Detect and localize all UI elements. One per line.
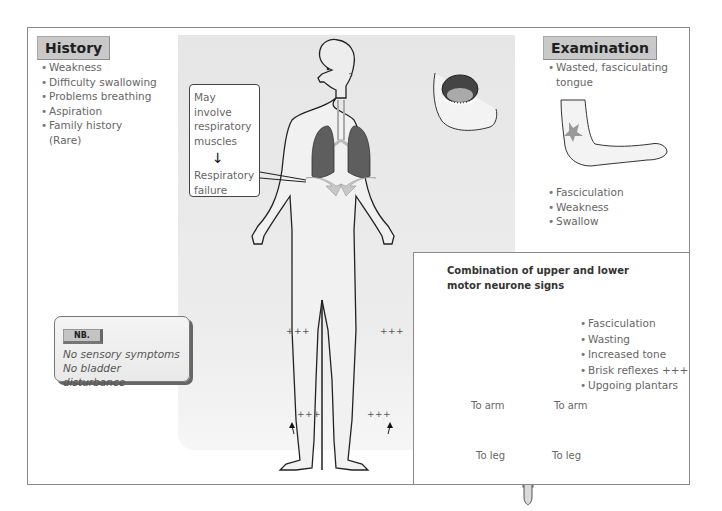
bullet-icon: • bbox=[580, 363, 586, 379]
history-title: History bbox=[37, 36, 110, 60]
to-arm-right-label: To arm bbox=[554, 400, 588, 411]
respiratory-failure-text: Respiratory failure bbox=[194, 168, 255, 197]
bullet-icon: • bbox=[41, 60, 47, 75]
down-arrow-icon: ↓ bbox=[194, 148, 255, 168]
examination-item: •Swallow bbox=[548, 214, 688, 229]
arm-fasciculation-illustration bbox=[555, 100, 670, 180]
nb-line: No bladder disturbance bbox=[63, 361, 181, 389]
history-item: •Family history (Rare) bbox=[41, 118, 131, 147]
bullet-icon: • bbox=[41, 75, 47, 90]
history-item: •Weakness bbox=[41, 60, 171, 75]
history-item: •Problems breathing bbox=[41, 89, 171, 104]
ankle-reflex-left: +++ bbox=[297, 409, 321, 419]
bullet-icon: • bbox=[548, 200, 554, 215]
history-item: •Difficulty swallowing bbox=[41, 75, 171, 90]
to-leg-right-label: To leg bbox=[552, 450, 581, 461]
motor-sign-item: •Wasting bbox=[580, 332, 690, 348]
bullet-icon: • bbox=[580, 347, 586, 363]
open-mouth-tongue-illustration bbox=[430, 65, 500, 135]
bullet-icon: • bbox=[41, 118, 47, 133]
examination-item: •Fasciculation bbox=[548, 185, 688, 200]
bullet-icon: • bbox=[580, 332, 586, 348]
bullet-icon: • bbox=[548, 214, 554, 229]
examination-list-bottom: •Fasciculation •Weakness •Swallow bbox=[548, 185, 688, 229]
examination-item: •Wasted, fasciculating tongue bbox=[548, 60, 688, 89]
respiratory-muscles-text: May involve respiratory muscles bbox=[194, 90, 255, 148]
ankle-reflex-right: +++ bbox=[367, 409, 391, 419]
motor-panel-title: Combination of upper and lower motor neu… bbox=[447, 263, 662, 293]
knee-reflex-right: +++ bbox=[380, 326, 404, 336]
history-list: •Weakness •Difficulty swallowing •Proble… bbox=[41, 60, 171, 147]
bullet-icon: • bbox=[548, 60, 554, 75]
motor-sign-item: •Increased tone bbox=[580, 347, 690, 363]
examination-list-top: •Wasted, fasciculating tongue bbox=[548, 60, 688, 89]
bullet-icon: • bbox=[548, 185, 554, 200]
bullet-icon: • bbox=[41, 104, 47, 119]
motor-neurone-panel: Combination of upper and lower motor neu… bbox=[413, 252, 690, 485]
nb-line: No sensory symptoms bbox=[63, 347, 181, 361]
nb-badge: NB. bbox=[63, 329, 103, 344]
motor-sign-item: •Fasciculation bbox=[580, 316, 690, 332]
motor-sign-item: •Upgoing plantars bbox=[580, 378, 690, 394]
bullet-icon: • bbox=[580, 378, 586, 394]
nb-note-box: NB. No sensory symptoms No bladder distu… bbox=[54, 316, 190, 382]
respiratory-callout: May involve respiratory muscles ↓ Respir… bbox=[189, 84, 260, 197]
to-leg-left-label: To leg bbox=[476, 450, 505, 461]
motor-sign-item: •Brisk reflexes +++ bbox=[580, 363, 690, 379]
bullet-icon: • bbox=[41, 89, 47, 104]
bullet-icon: • bbox=[580, 316, 586, 332]
motor-signs-list: •Fasciculation •Wasting •Increased tone … bbox=[580, 316, 690, 394]
to-arm-left-label: To arm bbox=[471, 400, 505, 411]
knee-reflex-left: +++ bbox=[286, 326, 310, 336]
examination-title: Examination bbox=[543, 36, 657, 60]
history-item: •Aspiration bbox=[41, 104, 171, 119]
examination-item: •Weakness bbox=[548, 200, 688, 215]
